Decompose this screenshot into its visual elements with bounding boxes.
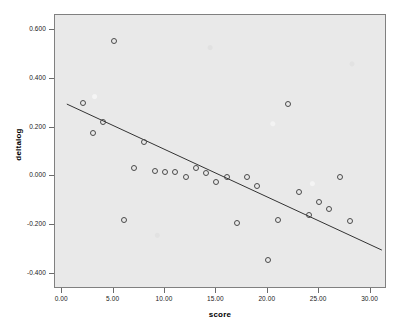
y-axis-tick-label: 0.600 (2, 25, 46, 32)
data-point (193, 165, 199, 171)
data-point (213, 179, 219, 185)
data-point (100, 119, 106, 125)
data-point (183, 174, 189, 180)
x-axis-tick-label: 20.00 (247, 295, 287, 302)
y-axis-tick-label: 0.000 (2, 171, 46, 178)
x-axis-tick-label: 25.00 (298, 295, 338, 302)
data-point (347, 218, 353, 224)
x-axis-tick-label: 15.00 (195, 295, 235, 302)
y-axis-tick-label: -0.200 (2, 220, 46, 227)
data-point (285, 101, 291, 107)
data-points-layer (55, 15, 385, 287)
x-axis-tick-label: 5.00 (93, 295, 133, 302)
y-axis-tick (49, 78, 54, 79)
x-axis-tick-label: 10.00 (144, 295, 184, 302)
data-point (337, 174, 343, 180)
x-axis-tick-label: 0.00 (41, 295, 81, 302)
data-point (224, 174, 230, 180)
x-axis-title: score (54, 310, 386, 319)
x-axis-tick (61, 288, 62, 293)
x-axis-tick (267, 288, 268, 293)
y-axis-tick-label: 0.200 (2, 123, 46, 130)
y-axis-tick-label: -0.400 (2, 269, 46, 276)
data-point (131, 165, 137, 171)
data-point (265, 257, 271, 263)
data-point (326, 206, 332, 212)
data-point (316, 199, 322, 205)
data-point (90, 130, 96, 136)
scatter-chart: 0.6000.4000.2000.000-0.200-0.400 0.005.0… (0, 0, 403, 334)
data-point (162, 169, 168, 175)
x-axis-tick (215, 288, 216, 293)
data-point (121, 217, 127, 223)
data-point (80, 100, 86, 106)
data-point (254, 183, 260, 189)
data-point (296, 189, 302, 195)
data-point (111, 38, 117, 44)
x-axis-tick (113, 288, 114, 293)
plot-area (54, 14, 386, 288)
data-point (275, 217, 281, 223)
x-axis-tick (318, 288, 319, 293)
data-point (306, 212, 312, 218)
data-point (244, 174, 250, 180)
y-axis-title: deltalog (14, 115, 23, 175)
x-axis-tick (370, 288, 371, 293)
data-point (141, 139, 147, 145)
y-axis-tick (49, 127, 54, 128)
data-point (234, 220, 240, 226)
data-point (172, 169, 178, 175)
x-axis-tick (164, 288, 165, 293)
x-axis-tick-label: 30.00 (350, 295, 390, 302)
y-axis-tick-label: 0.400 (2, 74, 46, 81)
y-axis-tick (49, 29, 54, 30)
y-axis-tick (49, 273, 54, 274)
data-point (203, 170, 209, 176)
y-axis-tick (49, 175, 54, 176)
y-axis-tick (49, 224, 54, 225)
data-point (152, 168, 158, 174)
